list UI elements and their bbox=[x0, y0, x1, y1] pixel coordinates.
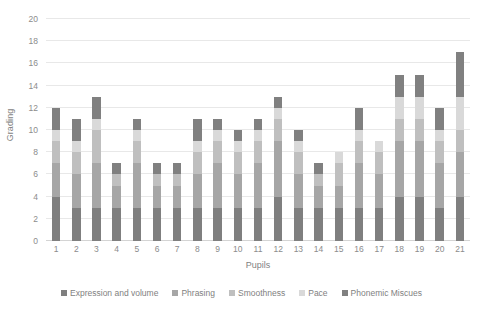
bar-column[interactable] bbox=[456, 52, 465, 241]
bar-column[interactable] bbox=[213, 119, 222, 241]
bar-segment bbox=[375, 174, 384, 207]
bar-segment bbox=[52, 163, 61, 196]
bar-segment bbox=[294, 174, 303, 207]
bar-segment bbox=[193, 152, 202, 174]
bar-segment bbox=[456, 52, 465, 96]
bar-segment bbox=[72, 174, 81, 207]
bar-segment bbox=[153, 174, 162, 185]
bar-segment bbox=[72, 208, 81, 241]
y-tick-label: 12 bbox=[29, 103, 38, 113]
y-tick-label: 4 bbox=[33, 192, 38, 202]
bar-segment bbox=[294, 152, 303, 174]
legend-item[interactable]: Expression and volume bbox=[61, 288, 158, 298]
legend-swatch-icon bbox=[61, 290, 67, 296]
bar-segment bbox=[213, 141, 222, 163]
bar-segment bbox=[435, 141, 444, 163]
bar-column[interactable] bbox=[395, 75, 404, 241]
bar-segment bbox=[335, 163, 344, 185]
bar-segment bbox=[435, 163, 444, 207]
bar-segment bbox=[395, 141, 404, 197]
bar-segment bbox=[193, 141, 202, 152]
bar-column[interactable] bbox=[415, 75, 424, 241]
legend-label: Smoothness bbox=[238, 288, 285, 298]
bar-segment bbox=[254, 208, 263, 241]
bar-column[interactable] bbox=[355, 108, 364, 241]
x-tick-label: 2 bbox=[74, 244, 79, 254]
bar-column[interactable] bbox=[52, 108, 61, 241]
x-tick-label: 19 bbox=[415, 244, 424, 254]
x-tick-label: 5 bbox=[134, 244, 139, 254]
bar-column[interactable] bbox=[335, 152, 344, 241]
legend-label: Phrasing bbox=[181, 288, 215, 298]
bar-column[interactable] bbox=[435, 108, 444, 241]
bar-column[interactable] bbox=[234, 130, 243, 241]
bar-column[interactable] bbox=[92, 97, 101, 241]
bar-segment bbox=[355, 141, 364, 163]
bar-segment bbox=[133, 163, 142, 207]
bar-column[interactable] bbox=[112, 163, 121, 241]
bar-column[interactable] bbox=[274, 97, 283, 241]
bar-segment bbox=[395, 97, 404, 119]
x-tick-label: 13 bbox=[294, 244, 303, 254]
x-tick-label: 15 bbox=[334, 244, 343, 254]
bar-segment bbox=[395, 197, 404, 241]
bar-segment bbox=[314, 186, 323, 208]
legend-item[interactable]: Smoothness bbox=[229, 288, 285, 298]
bar-segment bbox=[254, 130, 263, 141]
bar-segment bbox=[52, 141, 61, 163]
bar-segment bbox=[153, 186, 162, 208]
bar-segment bbox=[92, 97, 101, 119]
bar-segment bbox=[52, 108, 61, 130]
x-tick-label: 20 bbox=[435, 244, 444, 254]
bar-segment bbox=[153, 163, 162, 174]
y-axis-title-label: Grading bbox=[5, 109, 15, 142]
bar-segment bbox=[234, 208, 243, 241]
bar-segment bbox=[395, 75, 404, 97]
bar-segment bbox=[456, 197, 465, 241]
legend-swatch-icon bbox=[342, 290, 348, 296]
legend-item[interactable]: Phrasing bbox=[172, 288, 215, 298]
bar-segment bbox=[213, 119, 222, 130]
bar-segment bbox=[314, 163, 323, 174]
x-tick-label: 8 bbox=[195, 244, 200, 254]
bar-segment bbox=[213, 208, 222, 241]
bar-segment bbox=[234, 152, 243, 174]
x-axis-title: Pupils bbox=[46, 260, 470, 270]
legend-item[interactable]: Phonemic Miscues bbox=[342, 288, 422, 298]
x-tick-label: 14 bbox=[314, 244, 323, 254]
bar-segment bbox=[193, 119, 202, 141]
y-tick-label: 20 bbox=[29, 14, 38, 24]
bar-segment bbox=[456, 97, 465, 130]
bar-segment bbox=[274, 119, 283, 141]
bar-segment bbox=[274, 197, 283, 241]
legend-item[interactable]: Pace bbox=[299, 288, 327, 298]
bar-column[interactable] bbox=[72, 119, 81, 241]
bar-column[interactable] bbox=[314, 163, 323, 241]
bar-segment bbox=[112, 174, 121, 185]
bar-column[interactable] bbox=[294, 130, 303, 241]
bar-segment bbox=[456, 152, 465, 196]
bar-segment bbox=[456, 130, 465, 152]
chart-legend: Expression and volumePhrasingSmoothnessP… bbox=[0, 288, 483, 298]
bar-segment bbox=[335, 208, 344, 241]
x-tick-label: 11 bbox=[254, 244, 263, 254]
bar-segment bbox=[133, 119, 142, 130]
bar-segment bbox=[72, 119, 81, 141]
y-tick-label: 0 bbox=[33, 236, 38, 246]
bar-segment bbox=[335, 152, 344, 163]
bar-segment bbox=[234, 141, 243, 152]
bar-column[interactable] bbox=[193, 119, 202, 241]
bar-segment bbox=[274, 141, 283, 197]
y-tick-label: 6 bbox=[33, 169, 38, 179]
bar-column[interactable] bbox=[153, 163, 162, 241]
bar-column[interactable] bbox=[375, 141, 384, 241]
bar-segment bbox=[314, 208, 323, 241]
bar-segment bbox=[112, 186, 121, 208]
bar-segment bbox=[173, 186, 182, 208]
bar-column[interactable] bbox=[173, 163, 182, 241]
x-tick-label: 10 bbox=[233, 244, 242, 254]
bar-column[interactable] bbox=[254, 119, 263, 241]
bar-segment bbox=[193, 174, 202, 207]
bar-column[interactable] bbox=[133, 119, 142, 241]
x-tick-label: 7 bbox=[175, 244, 180, 254]
